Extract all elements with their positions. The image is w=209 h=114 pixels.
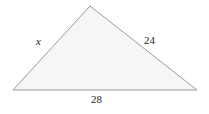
triangle-side-label-x: x bbox=[36, 36, 41, 47]
triangle-figure: x 24 28 bbox=[0, 0, 209, 114]
triangle-outline bbox=[13, 6, 197, 90]
triangle-side-label-base: 28 bbox=[91, 94, 102, 105]
triangle-side-label-right: 24 bbox=[144, 35, 155, 46]
triangle-shape bbox=[0, 0, 209, 114]
